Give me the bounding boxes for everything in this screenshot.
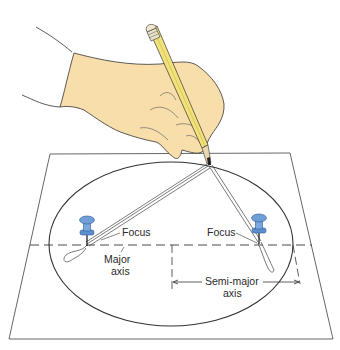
ellipse-drawing-diagram: Focus Focus Major axis Semi-major axis xyxy=(0,0,340,350)
svg-text:Major: Major xyxy=(104,253,131,265)
svg-text:axis: axis xyxy=(223,287,242,299)
paper-sheet xyxy=(9,153,333,339)
hand-illustration xyxy=(22,27,224,158)
svg-text:Semi-major: Semi-major xyxy=(205,275,259,287)
svg-text:Focus: Focus xyxy=(207,226,236,238)
svg-text:axis: axis xyxy=(111,265,130,277)
svg-text:Focus: Focus xyxy=(122,226,151,238)
